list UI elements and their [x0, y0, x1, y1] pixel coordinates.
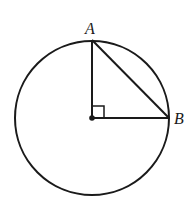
- label-b: B: [174, 110, 184, 127]
- geometry-diagram: A B: [0, 0, 194, 213]
- label-a: A: [84, 20, 95, 37]
- center-point: [89, 115, 95, 121]
